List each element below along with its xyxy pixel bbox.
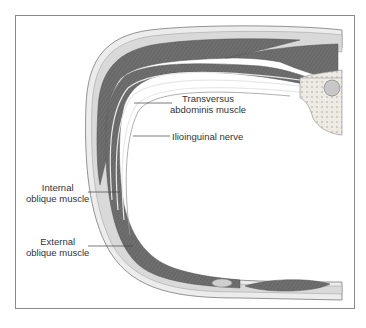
label-external-oblique: External oblique muscle bbox=[26, 236, 89, 258]
vertebra-bone bbox=[300, 70, 342, 135]
label-internal-oblique: Internal oblique muscle bbox=[26, 182, 89, 204]
abdominal-wall-illustration bbox=[0, 0, 366, 328]
label-transversus-abdominis: Transversus abdominis muscle bbox=[170, 93, 246, 115]
linea-semilunaris bbox=[212, 279, 232, 287]
spinal-cord bbox=[324, 80, 340, 96]
label-ilioinguinal-nerve: Ilioinguinal nerve bbox=[172, 131, 243, 142]
